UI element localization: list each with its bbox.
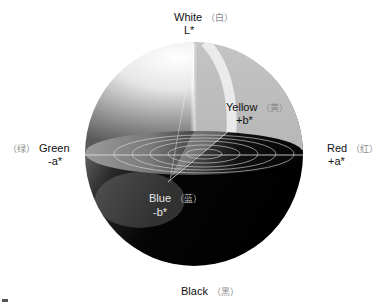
label-neg-a-axis: -a* xyxy=(48,155,62,167)
label-blue: Blue（蓝） xyxy=(149,192,202,205)
label-pos-a-axis: +a* xyxy=(328,155,345,167)
label-pos-b-axis: +b* xyxy=(236,114,253,126)
corner-mark xyxy=(2,299,8,302)
label-black: Black（黑） xyxy=(181,285,239,298)
label-red: Red（红） xyxy=(327,142,378,155)
label-l-axis: L* xyxy=(184,24,194,36)
label-green: （绿）Green xyxy=(8,142,70,155)
label-neg-b-axis: -b* xyxy=(153,206,167,218)
label-white: White（白） xyxy=(174,11,233,24)
label-yellow: Yellow（黄） xyxy=(226,101,288,114)
